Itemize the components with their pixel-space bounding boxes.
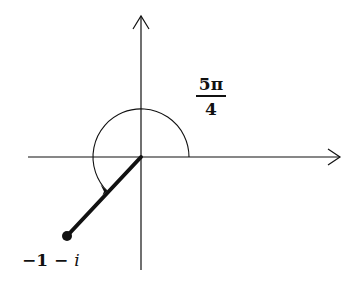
- point-label-real: −1 −: [22, 250, 68, 270]
- angle-denominator: 4: [196, 99, 226, 119]
- vector-segment: [67, 157, 141, 236]
- fraction-bar: [196, 95, 226, 97]
- angle-label: 5π 4: [196, 74, 226, 119]
- complex-plane: [0, 0, 359, 289]
- point-label-imag: i: [74, 250, 79, 270]
- point-label: −1 − i: [22, 250, 80, 270]
- point-marker: [62, 231, 72, 241]
- angle-numerator: 5π: [196, 74, 226, 94]
